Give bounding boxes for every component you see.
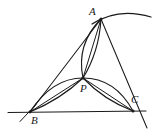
geometry-figure: A B C P bbox=[0, 0, 161, 137]
cevian-ap bbox=[83, 19, 101, 78]
label-point-c: C bbox=[131, 94, 138, 105]
label-point-b: B bbox=[31, 115, 38, 126]
cevian-bp bbox=[30, 78, 83, 112]
figure-canvas bbox=[0, 0, 161, 137]
vertex-dot-b bbox=[29, 111, 32, 114]
label-point-a: A bbox=[89, 6, 96, 17]
label-point-p: P bbox=[80, 83, 87, 94]
vertex-dot-p bbox=[81, 76, 84, 79]
cevian-cp bbox=[83, 78, 133, 111]
vertex-dot-a bbox=[100, 18, 103, 21]
vertex-dot-c bbox=[132, 110, 135, 113]
